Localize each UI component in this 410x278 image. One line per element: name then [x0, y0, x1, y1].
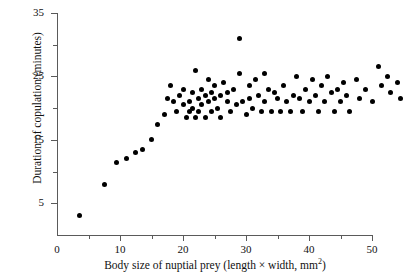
data-point	[294, 74, 299, 79]
data-point	[347, 109, 352, 114]
data-point	[310, 77, 315, 82]
data-point	[278, 109, 283, 114]
data-point	[124, 156, 129, 161]
data-point	[231, 87, 236, 92]
data-point	[190, 106, 195, 111]
data-point	[338, 99, 343, 104]
data-point	[262, 71, 267, 76]
data-point	[190, 90, 195, 95]
data-point	[259, 109, 264, 114]
data-point	[376, 64, 381, 69]
data-point	[262, 99, 267, 104]
data-point	[193, 115, 198, 120]
data-point	[398, 96, 403, 101]
data-point	[184, 115, 189, 120]
data-point	[181, 87, 186, 92]
data-point	[225, 90, 230, 95]
data-point	[385, 74, 390, 79]
data-point	[322, 99, 327, 104]
data-point	[102, 182, 107, 187]
data-point	[203, 93, 208, 98]
data-point	[275, 96, 280, 101]
data-point	[228, 109, 233, 114]
data-point	[329, 90, 334, 95]
data-point	[209, 109, 214, 114]
data-point	[303, 87, 308, 92]
data-point	[196, 96, 201, 101]
data-point	[237, 71, 242, 76]
data-point	[266, 87, 271, 92]
data-point	[244, 112, 249, 117]
data-point	[215, 106, 220, 111]
data-point	[225, 99, 230, 104]
data-point	[199, 87, 204, 92]
data-point	[291, 93, 296, 98]
data-point	[370, 99, 375, 104]
data-point	[288, 109, 293, 114]
data-point	[300, 109, 305, 114]
data-point	[297, 96, 302, 101]
data-point	[344, 93, 349, 98]
scatter-chart: 515253510203040500 Duration of copulatio…	[0, 0, 410, 278]
data-point	[171, 99, 176, 104]
data-point	[319, 83, 324, 88]
data-point	[209, 90, 214, 95]
data-point	[162, 112, 167, 117]
data-point	[149, 137, 154, 142]
data-point	[234, 102, 239, 107]
data-point	[256, 93, 261, 98]
data-point	[247, 83, 252, 88]
data-point	[341, 80, 346, 85]
data-point	[199, 102, 204, 107]
data-point	[253, 77, 258, 82]
data-point	[212, 83, 217, 88]
data-point	[114, 160, 119, 165]
data-point	[196, 109, 201, 114]
data-point	[363, 87, 368, 92]
data-point	[221, 80, 226, 85]
data-point	[316, 109, 321, 114]
data-point	[237, 36, 242, 41]
data-point	[206, 99, 211, 104]
data-point	[187, 99, 192, 104]
data-point	[206, 77, 211, 82]
data-point	[307, 99, 312, 104]
data-point	[133, 150, 138, 155]
data-point	[281, 83, 286, 88]
data-point	[395, 80, 400, 85]
data-point	[250, 106, 255, 111]
data-point	[168, 83, 173, 88]
data-point	[240, 99, 245, 104]
data-point	[165, 96, 170, 101]
data-point	[203, 115, 208, 120]
data-point	[177, 93, 182, 98]
data-point	[218, 115, 223, 120]
data-point	[284, 99, 289, 104]
data-point	[212, 96, 217, 101]
data-point	[332, 109, 337, 114]
data-point	[181, 102, 186, 107]
data-point	[357, 96, 362, 101]
data-point	[272, 90, 277, 95]
data-point	[313, 93, 318, 98]
data-point	[335, 87, 340, 92]
data-point	[325, 74, 330, 79]
data-point	[247, 96, 252, 101]
data-point	[174, 109, 179, 114]
data-point	[354, 77, 359, 82]
data-points	[0, 0, 410, 278]
data-point	[388, 90, 393, 95]
data-point	[77, 213, 82, 218]
data-point	[269, 109, 274, 114]
data-point	[193, 68, 198, 73]
data-point	[379, 83, 384, 88]
data-point	[140, 147, 145, 152]
data-point	[155, 122, 160, 127]
data-point	[218, 93, 223, 98]
